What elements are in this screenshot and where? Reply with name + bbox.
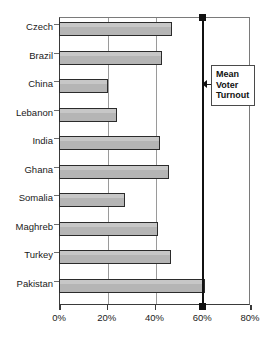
callout-arrow-icon bbox=[202, 80, 207, 88]
bar-somalia bbox=[59, 193, 125, 207]
cat-tick-turkey bbox=[54, 252, 59, 253]
cat-tick-india bbox=[54, 138, 59, 139]
cat-label-maghreb: Maghreb bbox=[0, 222, 53, 232]
cat-tick-czech bbox=[54, 24, 59, 25]
x-label-60: 60% bbox=[180, 312, 224, 323]
cat-tick-somalia bbox=[54, 195, 59, 196]
x-tick-80 bbox=[250, 305, 252, 310]
bar-china bbox=[59, 79, 108, 93]
x-label-0: 0% bbox=[37, 312, 81, 323]
cat-tick-brazil bbox=[54, 53, 59, 54]
cat-tick-pakistan bbox=[54, 281, 59, 282]
cat-label-ghana: Ghana bbox=[0, 165, 53, 175]
bar-lebanon bbox=[59, 108, 117, 122]
mean-voter-turnout-callout: Mean Voter Turnout bbox=[211, 65, 255, 106]
x-tick-40 bbox=[155, 305, 157, 310]
mean-voter-turnout-line bbox=[202, 17, 204, 307]
cat-tick-ghana bbox=[54, 167, 59, 168]
mean-line-top-cap bbox=[199, 14, 206, 21]
x-tick-0 bbox=[59, 305, 61, 310]
cat-label-india: India bbox=[0, 136, 53, 146]
bar-pakistan bbox=[59, 279, 205, 293]
callout-line-1: Mean bbox=[216, 69, 252, 80]
cat-label-turkey: Turkey bbox=[0, 250, 53, 260]
cat-tick-lebanon bbox=[54, 110, 59, 111]
callout-line-2: Voter bbox=[216, 80, 252, 91]
bar-india bbox=[59, 136, 160, 150]
x-label-40: 40% bbox=[133, 312, 177, 323]
bar-turkey bbox=[59, 250, 171, 264]
cat-tick-china bbox=[54, 81, 59, 82]
bar-chart: Czech Brazil China Lebanon India Ghana S… bbox=[0, 0, 276, 337]
cat-label-somalia: Somalia bbox=[0, 193, 53, 203]
bar-ghana bbox=[59, 165, 169, 179]
cat-label-lebanon: Lebanon bbox=[0, 108, 53, 118]
bars-layer bbox=[59, 17, 250, 305]
x-label-80: 80% bbox=[228, 312, 272, 323]
cat-label-czech: Czech bbox=[0, 22, 53, 32]
cat-tick-maghreb bbox=[54, 224, 59, 225]
x-label-20: 20% bbox=[85, 312, 129, 323]
mean-line-bottom-cap bbox=[199, 303, 206, 310]
cat-label-pakistan: Pakistan bbox=[0, 279, 53, 289]
bar-czech bbox=[59, 22, 172, 36]
callout-line-3: Turnout bbox=[216, 90, 252, 101]
cat-label-china: China bbox=[0, 79, 53, 89]
bar-brazil bbox=[59, 51, 162, 65]
cat-label-brazil: Brazil bbox=[0, 51, 53, 61]
bar-maghreb bbox=[59, 222, 158, 236]
x-tick-20 bbox=[107, 305, 109, 310]
